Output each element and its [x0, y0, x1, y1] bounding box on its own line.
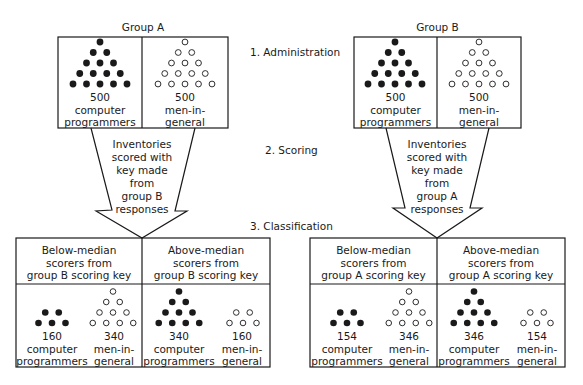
hollow-dot-icon	[469, 71, 475, 77]
arrow-line: from	[393, 177, 481, 190]
filled-dot-icon	[477, 320, 484, 327]
filled-dot-icon	[97, 60, 104, 67]
label-line: general	[214, 355, 270, 368]
label-line: computer	[58, 104, 142, 117]
filled-dot-icon	[176, 288, 183, 295]
hollow-dot-icon	[189, 50, 195, 56]
filled-dot-icon	[330, 320, 337, 327]
class-a-above-header: Above-median scorers from group B scorin…	[142, 244, 270, 282]
label-line: men-in-	[437, 104, 521, 117]
hollow-dot-icon	[117, 320, 123, 326]
filled-dot-icon	[337, 309, 344, 316]
hollow-dot-icon	[426, 320, 432, 326]
filled-dot-icon	[405, 60, 412, 67]
class-b-below-programmers: 154 computer programmers	[311, 330, 383, 368]
filled-dot-icon	[103, 70, 110, 77]
filled-dot-icon	[62, 320, 69, 327]
arrow-line: group A	[393, 190, 481, 203]
hollow-dot-icon	[399, 320, 405, 326]
hollow-dot-icon	[476, 39, 482, 45]
label-line: programmers	[354, 116, 437, 129]
hollow-dot-icon	[202, 71, 208, 77]
count: 346	[381, 330, 437, 343]
filled-dot-icon	[405, 81, 412, 88]
header-line: group B scoring key	[16, 269, 142, 282]
class-b-below-men: 346 men-in- general	[381, 330, 437, 368]
arrow-line: scored with	[393, 151, 481, 164]
filled-dot-icon	[371, 70, 378, 77]
arrow-line: key made	[393, 164, 481, 177]
count: 154	[311, 330, 383, 343]
hollow-dot-icon	[175, 71, 181, 77]
step-administration: 1. Administration	[250, 46, 340, 58]
filled-dot-icon	[450, 320, 457, 327]
arrow-line: from	[98, 177, 186, 190]
filled-dot-icon	[392, 81, 399, 88]
hollow-dot-icon	[117, 299, 123, 305]
header-line: scorers from	[16, 257, 142, 270]
hollow-dot-icon	[476, 60, 482, 66]
filled-dot-icon	[357, 320, 364, 327]
header-line: Below-median	[310, 244, 437, 257]
hollow-dot-icon	[196, 81, 202, 87]
arrow-line: Inventories	[393, 138, 481, 151]
label-line: computer	[143, 343, 215, 356]
header-line: Above-median	[437, 244, 565, 257]
filled-dot-icon	[176, 309, 183, 316]
hollow-dot-icon	[233, 310, 239, 316]
hollow-dot-icon	[449, 81, 455, 87]
label-line: programmers	[143, 355, 215, 368]
hollow-dot-icon	[110, 310, 116, 316]
filled-dot-icon	[196, 320, 203, 327]
filled-dot-icon	[155, 320, 162, 327]
label-line: computer	[438, 343, 510, 356]
header-line: group B scoring key	[142, 269, 270, 282]
hollow-dot-icon	[182, 60, 188, 66]
filled-dot-icon	[464, 299, 471, 306]
filled-dot-icon	[110, 60, 117, 67]
filled-dot-icon	[412, 70, 419, 77]
class-b-above-header: Above-median scorers from group A scorin…	[437, 244, 565, 282]
filled-dot-icon	[169, 299, 176, 306]
group-b-title: Group B	[354, 21, 521, 33]
filled-dot-icon	[477, 299, 484, 306]
hollow-dot-icon	[162, 71, 168, 77]
filled-dot-icon	[97, 39, 104, 46]
filled-dot-icon	[471, 309, 478, 316]
arrow-line: key made	[98, 164, 186, 177]
count: 340	[86, 330, 142, 343]
hollow-dot-icon	[490, 81, 496, 87]
label-line: men-in-	[214, 343, 270, 356]
label-line: computer	[354, 104, 437, 117]
filled-dot-icon	[189, 309, 196, 316]
label-line: programmers	[16, 355, 88, 368]
hollow-dot-icon	[103, 299, 109, 305]
group-a-programmers-label: 500 computer programmers	[58, 91, 142, 129]
count: 340	[143, 330, 215, 343]
filled-dot-icon	[103, 49, 110, 56]
class-a-above-men: 160 men-in- general	[214, 330, 270, 368]
filled-dot-icon	[385, 49, 392, 56]
filled-dot-icon	[169, 320, 176, 327]
filled-dot-icon	[419, 81, 426, 88]
filled-dot-icon	[491, 320, 498, 327]
filled-dot-icon	[378, 81, 385, 88]
hollow-dot-icon	[521, 320, 527, 326]
filled-dot-icon	[484, 309, 491, 316]
label-line: general	[142, 116, 228, 129]
header-line: group A scoring key	[437, 269, 565, 282]
arrow-a-text: Inventories scored with key made from gr…	[98, 138, 186, 216]
filled-dot-icon	[124, 81, 131, 88]
hollow-dot-icon	[463, 81, 469, 87]
hollow-dot-icon	[90, 320, 96, 326]
filled-dot-icon	[398, 49, 405, 56]
hollow-dot-icon	[503, 81, 509, 87]
filled-dot-icon	[55, 309, 62, 316]
label-line: men-in-	[509, 343, 565, 356]
header-line: scorers from	[437, 257, 565, 270]
hollow-dot-icon	[196, 60, 202, 66]
hollow-dot-icon	[97, 310, 103, 316]
filled-dot-icon	[90, 70, 97, 77]
filled-dot-icon	[35, 320, 42, 327]
hollow-dot-icon	[227, 320, 233, 326]
